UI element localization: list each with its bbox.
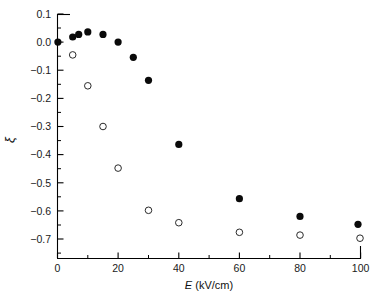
x-axis-label: E (kV/cm) <box>185 279 233 291</box>
data-point-open <box>145 207 152 214</box>
x-tick-label: 80 <box>294 262 306 274</box>
data-point-open <box>297 232 304 239</box>
y-tick-label: −0.2 <box>30 92 51 104</box>
data-point-open <box>115 165 122 172</box>
y-tick-label: 0.0 <box>36 36 51 48</box>
x-tick-label: 40 <box>173 262 185 274</box>
y-major-ticks <box>58 14 64 239</box>
data-point-filled <box>145 77 152 84</box>
figure-container: 0.1 0.0 −0.1 −0.2 −0.3 −0.4 −0.5 −0.6 −0… <box>0 0 378 301</box>
data-point-filled <box>54 39 61 46</box>
y-tick-label: 0.1 <box>36 8 51 20</box>
data-point-filled <box>115 39 122 46</box>
data-point-open <box>85 83 92 90</box>
y-tick-labels: 0.1 0.0 −0.1 −0.2 −0.3 −0.4 −0.5 −0.6 −0… <box>30 8 51 245</box>
scatter-plot: 0.1 0.0 −0.1 −0.2 −0.3 −0.4 −0.5 −0.6 −0… <box>0 0 378 301</box>
data-point-open <box>357 235 364 242</box>
data-point-filled <box>236 195 243 202</box>
series-open-circles <box>69 52 363 242</box>
data-point-filled <box>354 221 361 228</box>
y-tick-label: −0.4 <box>30 148 51 160</box>
y-tick-label: −0.1 <box>30 64 51 76</box>
y-tick-label: −0.5 <box>30 177 51 189</box>
y-tick-label: −0.3 <box>30 120 51 132</box>
data-point-open <box>176 219 183 226</box>
x-tick-label: 0 <box>55 262 61 274</box>
data-point-filled <box>84 28 91 35</box>
data-point-filled <box>175 141 182 148</box>
plot-axes <box>57 14 361 259</box>
x-tick-label: 60 <box>234 262 246 274</box>
data-point-filled <box>296 213 303 220</box>
x-tick-label: 20 <box>112 262 124 274</box>
x-tick-label: 100 <box>352 262 370 274</box>
data-point-open <box>69 52 76 59</box>
data-point-filled <box>130 54 137 61</box>
data-point-open <box>100 123 107 130</box>
data-point-filled <box>99 31 106 38</box>
data-point-open <box>236 229 243 236</box>
data-point-filled <box>75 31 82 38</box>
x-tick-labels: 0 20 40 60 80 100 <box>55 262 370 274</box>
y-tick-label: −0.6 <box>30 205 51 217</box>
x-axis-label-units: (kV/cm) <box>192 279 233 291</box>
y-axis-label: ξ <box>2 136 17 143</box>
y-tick-label: −0.7 <box>30 233 51 245</box>
